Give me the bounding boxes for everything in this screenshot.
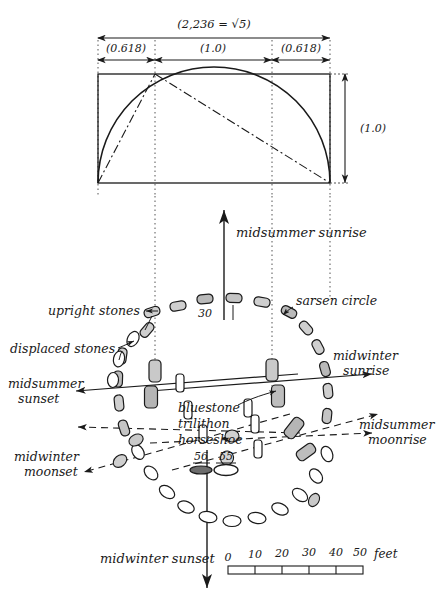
midsummer-sunset-label-2: sunset: [18, 391, 60, 406]
sarsen-circle-label: sarsen circle: [296, 293, 377, 308]
upright-stones-label: upright stones: [48, 303, 140, 318]
segment-label-right: (0.618): [281, 42, 321, 55]
figure-canvas: (2,236 = √5) (0.618) (1.0) (0.618) (1.0): [0, 0, 448, 600]
scale-tick-label-40: 40: [328, 546, 343, 559]
bluestone-label: bluestone: [178, 400, 240, 415]
midwinter-moonset-label-2: moonset: [24, 464, 79, 479]
scale-tick-label-50: 50: [353, 546, 367, 559]
midwinter-sunset-label: midwinter sunset: [100, 551, 216, 566]
scale-tick-label-30: 30: [302, 546, 316, 559]
midsummer-moonrise-label-2: moonrise: [368, 432, 427, 447]
trilithon-label: trilithon: [178, 416, 230, 431]
scale-tick-label-20: 20: [274, 547, 289, 560]
midsummer-sunrise-label: midsummer sunrise: [236, 225, 367, 240]
segment-label-left: (0.618): [106, 42, 146, 55]
stonehenge-figure: (2,236 = √5) (0.618) (1.0) (0.618) (1.0): [0, 0, 448, 600]
segment-label-middle: (1.0): [200, 42, 226, 55]
overall-dimension-label: (2,236 = √5): [177, 17, 251, 31]
scale-unit-label: feet: [373, 547, 398, 561]
displaced-stone: [223, 516, 241, 527]
midsummer-moonrise-label-1: midsummer: [359, 417, 435, 432]
height-dimension-label: (1.0): [360, 122, 386, 135]
midsummer-sunset-label-1: midsummer: [8, 376, 84, 391]
midwinter-moonset-label-1: midwinter: [14, 449, 80, 464]
displaced-stones-label: displaced stones: [10, 341, 115, 356]
stone-55: [214, 465, 238, 476]
midwinter-sunrise-label-1: midwinter: [333, 348, 399, 363]
midwinter-sunrise-label-2: sunrise: [343, 363, 389, 378]
stone-55-label: 55: [219, 450, 233, 463]
stone-56: [190, 466, 212, 474]
stone-56-label: 56: [194, 450, 208, 463]
scale-tick-label-10: 10: [248, 548, 262, 561]
scale-tick-label-0: 0: [225, 551, 232, 564]
displaced-stone: [107, 372, 119, 387]
stone-30-label: 30: [198, 307, 212, 320]
horseshoe-label: horseshoe: [178, 432, 243, 447]
